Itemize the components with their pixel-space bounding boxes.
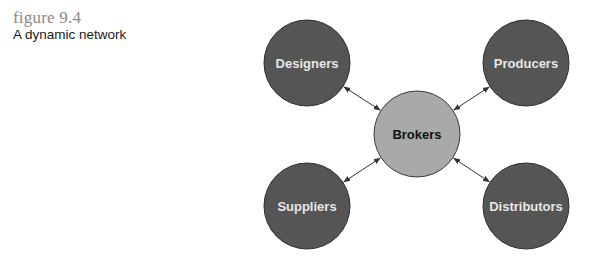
- node-label: Designers: [276, 56, 339, 71]
- network-diagram: BrokersDesignersProducersSuppliersDistri…: [0, 0, 614, 259]
- node-brokers: Brokers: [374, 91, 460, 177]
- arrow-distributors-brokers: [454, 158, 490, 181]
- node-suppliers: Suppliers: [264, 163, 350, 249]
- arrow-suppliers-brokers: [344, 158, 380, 182]
- node-producers: Producers: [483, 20, 569, 106]
- arrow-designers-brokers: [344, 87, 380, 110]
- node-label: Distributors: [489, 199, 563, 214]
- node-distributors: Distributors: [483, 163, 569, 249]
- arrow-producers-brokers: [454, 87, 489, 110]
- node-designers: Designers: [264, 20, 350, 106]
- node-label: Suppliers: [277, 199, 336, 214]
- node-label: Brokers: [392, 127, 441, 142]
- nodes: BrokersDesignersProducersSuppliersDistri…: [264, 20, 569, 249]
- node-label: Producers: [494, 56, 558, 71]
